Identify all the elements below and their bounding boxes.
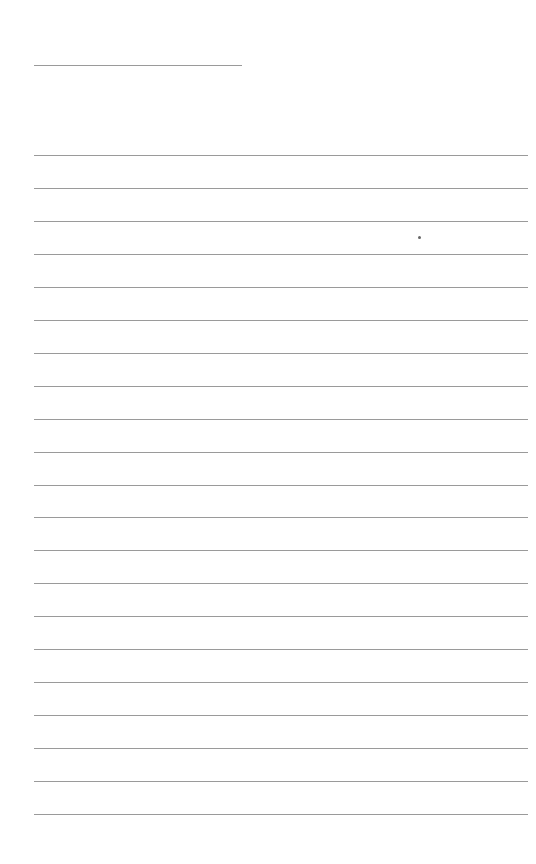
ruled-line [34, 517, 528, 518]
ruled-line [34, 155, 528, 156]
ruled-line [34, 386, 528, 387]
ruled-line [34, 320, 528, 321]
ruled-line [34, 583, 528, 584]
ruled-line [34, 616, 528, 617]
ruled-line [34, 188, 528, 189]
ruled-line [34, 748, 528, 749]
ruled-line [34, 649, 528, 650]
ruled-line [34, 287, 528, 288]
ruled-line [34, 682, 528, 683]
ruled-line [34, 715, 528, 716]
stray-mark [418, 236, 421, 239]
ruled-line [34, 221, 528, 222]
ruled-line [34, 452, 528, 453]
ruled-line [34, 781, 528, 782]
ruled-line [34, 254, 528, 255]
ruled-line [34, 814, 528, 815]
ruled-line [34, 353, 528, 354]
header-line [34, 65, 242, 66]
ruled-line [34, 419, 528, 420]
ruled-line [34, 550, 528, 551]
ruled-line [34, 485, 528, 486]
